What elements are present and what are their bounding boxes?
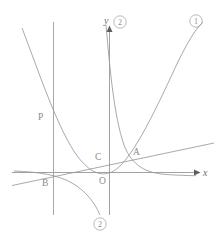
curve-label-2-bottom-text: 2 [98,220,102,229]
curve-label-1-top-right: 1 [190,15,202,27]
point-label-B: B [42,178,48,188]
point-label-O: O [99,176,106,186]
point-label-A: A [133,147,140,157]
point-label-C: C [95,152,101,162]
hyperbola-lower-branch-2 [14,171,100,215]
x-axis-arrowhead [194,170,201,176]
point-label-P: P [38,112,43,122]
figure-canvas: P B C O A x y 1 2 2 [0,0,219,239]
curve-label-2-bottom: 2 [94,218,106,230]
hyperbola-upper-branch-2 [106,25,196,176]
curve-label-2-top: 2 [114,16,126,28]
curve-label-1-text: 1 [194,17,198,26]
y-axis-arrowhead [107,26,113,33]
y-axis-label: y [103,15,109,26]
y-axis [107,26,113,216]
x-axis-label: x [202,167,208,178]
geometry-figure: P B C O A x y 1 2 2 [0,0,219,239]
curve-label-2-top-text: 2 [118,18,122,27]
